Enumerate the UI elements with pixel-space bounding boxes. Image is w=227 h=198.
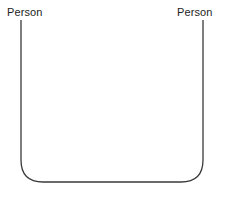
lifeline-connector-svg bbox=[0, 0, 227, 198]
lifeline-connector-path bbox=[21, 20, 203, 182]
actor-label-person-left: Person bbox=[7, 6, 42, 18]
sequence-diagram-canvas: Person Person bbox=[0, 0, 227, 198]
actor-label-person-right: Person bbox=[177, 6, 212, 18]
